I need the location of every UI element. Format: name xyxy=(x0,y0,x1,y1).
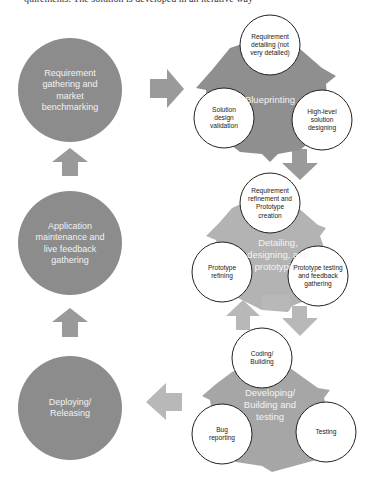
blueprint-step-label: Solution design validation xyxy=(204,106,244,131)
developing-hub-label: Developing/ Building and testing xyxy=(234,387,306,423)
developing-step-label: Bug reporting xyxy=(204,426,240,442)
up-arrow-icon xyxy=(52,308,88,337)
blueprinting-hub-label: Blueprinting xyxy=(225,94,315,106)
up-arrow-icon xyxy=(52,148,88,176)
blueprint-step-label: Requirement detailing (not very detailed… xyxy=(244,33,296,58)
developing-step-label: Coding/ Building xyxy=(244,350,280,366)
right-arrow-icon xyxy=(150,69,184,108)
left-arrow-icon xyxy=(146,383,182,420)
up-arrow-stem xyxy=(236,316,250,330)
detailing-step-label: Prototype testing and feedback gathering xyxy=(292,264,344,289)
requirement-phase-label: Requirement gathering and market benchma… xyxy=(28,68,112,113)
deploying-phase-label: Deploying/ Releasing xyxy=(40,397,100,420)
left-arrow-stem xyxy=(262,295,290,310)
down-arrow-icon xyxy=(282,149,318,180)
detailing-step-label: Prototype refining xyxy=(200,264,244,280)
maintenance-phase-label: Application maintenance and live feedbac… xyxy=(28,221,112,266)
blueprint-step-label: High-level solution designing xyxy=(296,108,348,133)
developing-step-label: Testing xyxy=(300,428,352,436)
detailing-step-label: Requirement refinement and Prototype cre… xyxy=(244,187,296,220)
